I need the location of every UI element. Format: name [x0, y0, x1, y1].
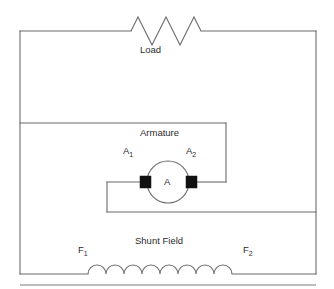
field-terminal-f1-subscript: 1 [84, 250, 88, 257]
load-label: Load [140, 45, 161, 55]
armature-terminal-a1-label: A1 [123, 146, 133, 158]
armature-terminal-a2-subscript: 2 [192, 151, 196, 158]
armature-label: Armature [140, 128, 179, 138]
armature-terminal-a1-subscript: 1 [129, 151, 133, 158]
armature-brush-right [186, 176, 197, 188]
shunt-field-coil-symbol [88, 265, 232, 274]
armature-core-label: A [164, 177, 170, 187]
shunt-field-label: Shunt Field [135, 236, 183, 246]
circuit-diagram: Load Armature A1 A2 A Shunt Field F1 F2 [0, 0, 334, 289]
armature-terminal-a2-label: A2 [186, 146, 196, 158]
armature-brush-left [140, 176, 151, 188]
field-terminal-f2-subscript: 2 [249, 250, 253, 257]
load-resistor-symbol [131, 17, 201, 45]
field-terminal-f1-label: F1 [78, 245, 88, 257]
field-terminal-f2-label: F2 [243, 245, 253, 257]
